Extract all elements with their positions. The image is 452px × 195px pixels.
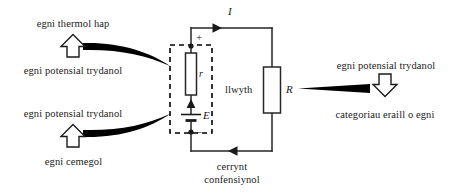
right-below-label: categoriau eraill o egni xyxy=(318,108,452,121)
right-above-label: egni potensial trydanol xyxy=(325,59,447,72)
bottom-caption-line2: confensiynol xyxy=(182,173,282,186)
bottom-caption-line1: cerrynt xyxy=(196,160,268,173)
circuit-diagram-page: I + – r E llwyth R cerrynt confensiynol … xyxy=(0,0,452,195)
left-top-below-label: egni potensial trydanol xyxy=(8,64,138,77)
load-resistor-R xyxy=(264,67,281,113)
load-resistor-label: R xyxy=(286,83,293,95)
left-bottom-above-label: egni potensial trydanol xyxy=(8,107,138,120)
terminal-negative-sign: – xyxy=(196,126,202,137)
pointer-to-internal-resistance xyxy=(83,43,170,66)
current-arrowhead-bottom xyxy=(228,146,238,156)
terminal-positive-sign: + xyxy=(196,32,202,43)
emf-label: E xyxy=(203,109,210,121)
pointer-to-load-resistor xyxy=(298,84,370,93)
node-dot-positive xyxy=(188,43,193,48)
left-top-above-label: egni thermol hap xyxy=(13,17,133,30)
node-dot-negative xyxy=(188,129,193,134)
current-label: I xyxy=(228,5,232,17)
emf-direction-arrowhead xyxy=(187,99,196,108)
left-bottom-below-label: egni cemegol xyxy=(26,155,121,168)
internal-resistance-label: r xyxy=(199,68,203,79)
internal-resistance-r xyxy=(186,53,197,95)
current-arrowhead-top xyxy=(213,23,223,33)
outline-down-arrow-icon-other xyxy=(373,74,397,97)
outline-up-arrow-icon-thermal xyxy=(61,35,85,58)
outline-up-arrow-icon-chemical xyxy=(61,125,85,148)
load-label: llwyth xyxy=(225,83,252,96)
